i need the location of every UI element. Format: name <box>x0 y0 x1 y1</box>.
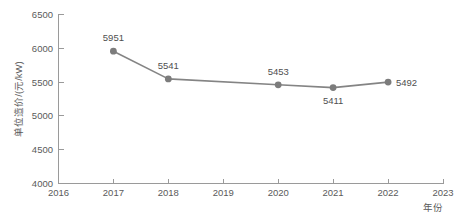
x-tick-label-2020: 2020 <box>268 187 289 198</box>
data-point-2020[interactable] <box>275 81 282 88</box>
series-line-unit-cost <box>113 51 388 87</box>
chart-canvas: 6500 6000 5500 5000 4500 4000 2016 2017 … <box>0 0 456 221</box>
line-chart: 6500 6000 5500 5000 4500 4000 2016 2017 … <box>0 0 456 221</box>
y-axis-tick-labels: 6500 6000 5500 5000 4500 4000 <box>32 9 53 189</box>
data-label-2018: 5541 <box>158 60 179 71</box>
data-point-2017[interactable] <box>110 48 117 55</box>
data-label-2021: 5411 <box>323 95 343 106</box>
data-label-2020: 5453 <box>268 66 289 77</box>
x-tick-label-2019: 2019 <box>213 187 234 198</box>
y-tick-label-4500: 4500 <box>32 144 53 155</box>
x-tick-label-2017: 2017 <box>103 187 124 198</box>
y-axis-ticks <box>59 15 64 184</box>
y-axis-title: 单位造价/(元/kW) <box>13 61 24 136</box>
data-point-2022[interactable] <box>385 79 392 86</box>
x-tick-label-2021: 2021 <box>323 187 344 198</box>
y-tick-label-6000: 6000 <box>32 43 53 54</box>
y-tick-label-5500: 5500 <box>32 77 53 88</box>
data-label-2017: 5951 <box>103 32 124 43</box>
data-label-2022: 5492 <box>396 77 417 88</box>
x-axis-tick-labels: 2016 2017 2018 2019 2020 2021 2022 2023 <box>48 187 454 198</box>
x-tick-label-2018: 2018 <box>158 187 179 198</box>
x-tick-label-2022: 2022 <box>378 187 399 198</box>
x-tick-label-2016: 2016 <box>48 187 69 198</box>
y-tick-label-5000: 5000 <box>32 110 53 121</box>
x-tick-label-2023: 2023 <box>432 187 453 198</box>
series-markers <box>110 48 392 91</box>
x-axis-title: 年份 <box>423 202 443 213</box>
data-point-2021[interactable] <box>330 84 337 91</box>
y-tick-label-6500: 6500 <box>32 9 53 20</box>
x-axis-ticks <box>59 179 444 184</box>
data-point-2018[interactable] <box>165 76 172 83</box>
